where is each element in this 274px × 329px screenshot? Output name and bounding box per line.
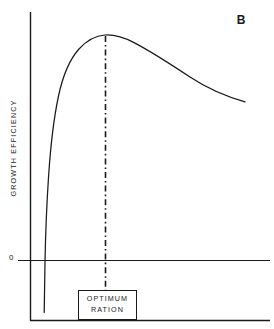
y-axis-title: GROWTH EFFICIENCY bbox=[10, 99, 17, 196]
optimum-ration-box: OPTIMUM RATION bbox=[78, 290, 137, 320]
optimum-ration-line-2: RATION bbox=[91, 305, 124, 316]
panel-label: B bbox=[237, 14, 246, 26]
zero-tick-label: 0 bbox=[9, 254, 13, 262]
figure-panel-b: B GROWTH EFFICIENCY 0 OPTIMUM RATION bbox=[0, 0, 274, 329]
growth-efficiency-chart bbox=[0, 0, 274, 329]
optimum-ration-line-1: OPTIMUM bbox=[87, 294, 128, 305]
growth-efficiency-curve bbox=[44, 35, 245, 313]
